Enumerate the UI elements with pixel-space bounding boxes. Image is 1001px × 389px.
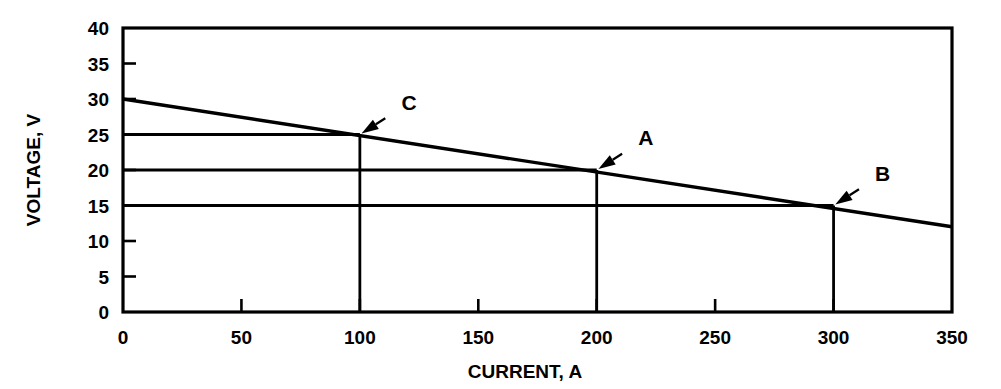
annotation-arrow-shaft-A — [613, 154, 622, 160]
x-tick-label: 300 — [818, 327, 850, 348]
y-tick-label: 40 — [88, 18, 109, 39]
x-axis-title: CURRENT, A — [468, 361, 583, 382]
reference-lines — [123, 135, 834, 313]
y-tick-label: 30 — [88, 89, 109, 110]
x-tick-label: 150 — [462, 327, 494, 348]
x-axis-tick-labels: 050100150200250300350 — [118, 327, 968, 348]
x-tick-label: 250 — [699, 327, 731, 348]
annotation-arrow-shaft-B — [850, 189, 859, 195]
annotation-arrow-head-B — [835, 191, 852, 205]
y-tick-label: 15 — [88, 196, 110, 217]
voltage-current-chart: 0510152025303540 050100150200250300350 C… — [0, 0, 1001, 389]
x-axis-tick-marks — [241, 299, 833, 312]
y-tick-label: 25 — [88, 125, 110, 146]
y-tick-label: 10 — [88, 231, 109, 252]
y-tick-label: 0 — [98, 302, 109, 323]
annotation-arrow-shaft-C — [376, 118, 385, 124]
x-tick-label: 350 — [936, 327, 968, 348]
data-series-lines — [123, 99, 952, 227]
y-tick-label: 35 — [88, 54, 110, 75]
y-tick-label: 20 — [88, 160, 109, 181]
x-tick-label: 0 — [118, 327, 129, 348]
y-axis-title: VOLTAGE, V — [23, 114, 44, 227]
y-axis-tick-labels: 0510152025303540 — [88, 18, 110, 323]
annotation-arrow-head-C — [362, 120, 379, 134]
point-label-C: C — [401, 91, 416, 114]
annotation-arrow-head-A — [598, 155, 615, 169]
annotation-arrows — [362, 118, 859, 204]
x-tick-label: 100 — [344, 327, 376, 348]
x-tick-label: 50 — [231, 327, 252, 348]
data-line-volt-ampere-characteristic — [123, 99, 952, 227]
y-tick-label: 5 — [98, 267, 109, 288]
chart-container: 0510152025303540 050100150200250300350 C… — [0, 0, 1001, 389]
point-label-A: A — [638, 126, 653, 149]
point-label-B: B — [875, 162, 890, 185]
x-tick-label: 200 — [581, 327, 613, 348]
